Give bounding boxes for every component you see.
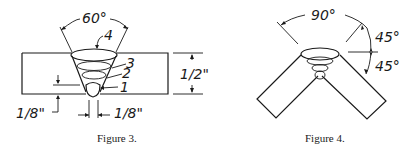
root-face-label: 1/8" bbox=[16, 105, 45, 121]
root-face-arrowheads bbox=[56, 80, 60, 99]
root-gap-label: 1/8" bbox=[114, 105, 143, 121]
weld-pass-4 bbox=[71, 49, 117, 61]
root-gap-arrowheads bbox=[85, 113, 102, 117]
fig4-weld-pass bbox=[312, 65, 328, 72]
figure-4-caption: Figure 4. bbox=[305, 132, 345, 144]
leader-2 bbox=[107, 74, 122, 78]
angle-60-label: 60° bbox=[82, 10, 107, 26]
angle-45-upper-label: 45° bbox=[375, 29, 400, 45]
fig4-weld-root bbox=[315, 71, 325, 79]
fig4-angle-arcs bbox=[281, 15, 371, 74]
figure-3-caption: Figure 3. bbox=[97, 132, 137, 144]
fig4-weld-pass bbox=[307, 57, 333, 65]
root-gap-dimension-lines bbox=[78, 100, 110, 118]
angle-90-label: 90° bbox=[311, 7, 336, 23]
arrowhead-4 bbox=[95, 45, 99, 49]
pass-label-4: 4 bbox=[104, 27, 113, 43]
figure-4: 90° 45° 45° Figure 4. bbox=[257, 7, 400, 144]
angle-45-lower-label: 45° bbox=[375, 58, 400, 74]
fig4-extension-lines bbox=[277, 22, 378, 52]
left-bar bbox=[257, 55, 318, 118]
weld-pass-1 bbox=[86, 83, 100, 98]
plate-outline bbox=[22, 53, 168, 94]
weld-pass-3 bbox=[77, 62, 111, 71]
pass-label-1: 1 bbox=[120, 79, 129, 95]
figure-3: 60° 4 3 2 1 1/2" 1/8" 1/8" Figure 3. bbox=[16, 10, 209, 144]
thickness-label: 1/2" bbox=[180, 66, 209, 82]
angle-extension-lines bbox=[60, 27, 128, 52]
weld-pass-2 bbox=[82, 71, 106, 79]
fig4-weld-cap bbox=[301, 48, 339, 60]
figure-canvas: 60° 4 3 2 1 1/2" 1/8" 1/8" Figure 3. bbox=[0, 0, 418, 149]
